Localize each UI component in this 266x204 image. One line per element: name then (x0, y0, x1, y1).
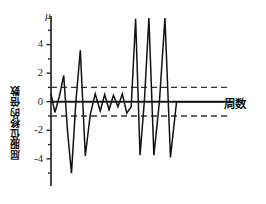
y-tick-label: 0 (38, 96, 43, 107)
series-polyline (51, 18, 224, 173)
y-axis-title: 屈服位移的倍数 (8, 42, 23, 160)
y-axis-symbol-label: μ (44, 10, 50, 21)
x-axis-title: 周数 (224, 95, 246, 111)
y-tick-label: -4 (34, 153, 43, 164)
y-tick-labels-group: -4-2024 (34, 38, 44, 163)
y-tick-label: 4 (38, 38, 44, 49)
y-tick-label: 2 (38, 67, 43, 78)
y-tick-label: -2 (34, 124, 43, 135)
chart-figure: -4-2024 μ 屈服位移的倍数 周数 (0, 0, 266, 204)
data-series-group (51, 18, 224, 173)
axes-group (47, 16, 52, 186)
